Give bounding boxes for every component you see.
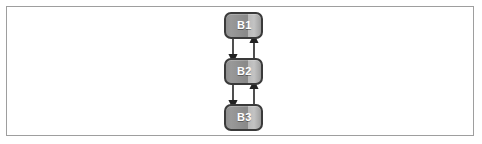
- screenshot-root: B1 B2 B3: [0, 0, 482, 144]
- diagram-layer: B1 B2 B3: [0, 0, 482, 144]
- diagram-node-b3[interactable]: B3: [224, 104, 263, 131]
- diagram-node-b3-label: B3: [237, 112, 251, 123]
- diagram-node-b2-label: B2: [237, 66, 251, 77]
- diagram-node-b2[interactable]: B2: [224, 58, 263, 85]
- diagram-node-b1[interactable]: B1: [224, 12, 263, 39]
- diagram-node-b1-label: B1: [237, 20, 251, 31]
